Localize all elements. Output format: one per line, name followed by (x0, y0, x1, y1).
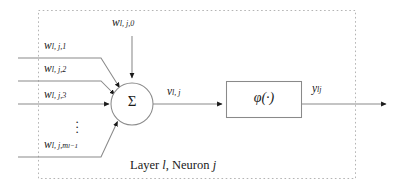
input-weight-label-3: wl, j,3 (44, 89, 66, 101)
input-connection-1 (18, 58, 120, 88)
neuron-diagram-figure: wl, j,0 wl, j,1 wl, j,2 wl, j,3 wl, j,ml… (0, 0, 401, 188)
input-connection-2 (18, 81, 115, 95)
summation-symbol: Σ (119, 94, 145, 109)
input-ellipsis: ... (72, 116, 82, 131)
input-weight-label-2: wl, j,2 (44, 63, 66, 75)
input-weight-label-1: wl, j,1 (44, 40, 66, 52)
input-weight-label-m: wl, j,ml−1 (44, 139, 78, 151)
bias-weight-label: wl, j,0 (112, 17, 134, 29)
net-input-label: vl, j (167, 86, 181, 98)
figure-caption: Layer l, Neuron j (130, 159, 216, 172)
output-label: ylj (312, 83, 322, 95)
activation-function-symbol: φ(·) (226, 91, 302, 105)
layer-boundary-box (39, 11, 356, 179)
